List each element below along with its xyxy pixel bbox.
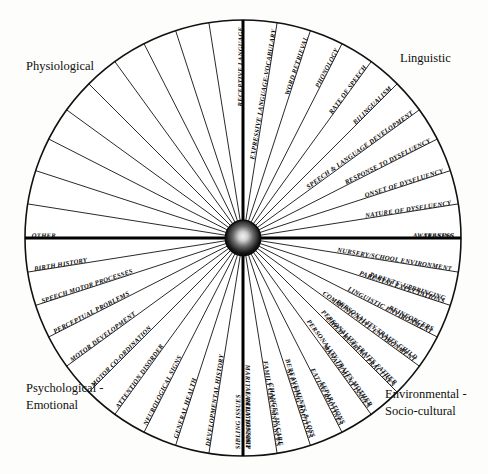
sector-label: SIBLING ISSUES xyxy=(234,394,241,449)
sector-label: RECEPTIVE LANGUAGE xyxy=(236,26,244,107)
factor-wheel-diagram: OTHERBIRTH HISTORYSPEECH MOTOR PROCESSES… xyxy=(0,0,488,474)
sector-label: TEASING xyxy=(424,232,454,239)
sector-label: MARITAL RELATIONSHIP xyxy=(244,364,252,450)
center-hub xyxy=(226,221,260,255)
quadrant-label-psychological-emotional: Psychological -Emotional xyxy=(26,381,103,412)
quadrant-label-physiological: Physiological xyxy=(26,59,95,73)
wheel-svg: OTHERBIRTH HISTORYSPEECH MOTOR PROCESSES… xyxy=(0,0,488,474)
sector-label: OTHER xyxy=(32,232,56,239)
quadrant-label-linguistic: Linguistic xyxy=(400,51,451,65)
quadrant-label-environmental-socio-cultural: Environmental -Socio-cultural xyxy=(385,387,467,418)
